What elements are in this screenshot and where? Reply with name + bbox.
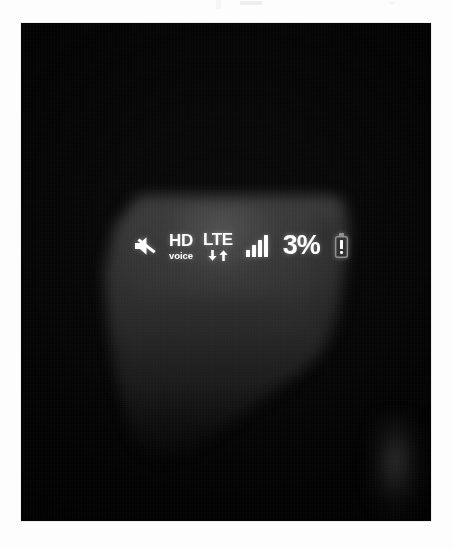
phone-status-bar: HD voice LTE	[133, 230, 348, 262]
phone-screen-photo: HD voice LTE	[21, 23, 431, 521]
battery-warning-dot	[340, 251, 343, 254]
hd-voice-icon: HD voice	[169, 232, 193, 260]
lte-icon: LTE	[203, 231, 233, 261]
signal-bar	[264, 235, 268, 257]
network-type-label: LTE	[203, 231, 233, 248]
signal-bars-icon	[246, 235, 268, 257]
arrow-up-icon	[219, 250, 228, 261]
photo-print-page: HD voice LTE	[0, 0, 453, 549]
hd-voice-secondary-label: voice	[169, 251, 193, 261]
scan-artifact	[240, 1, 262, 5]
speaker-mute-icon[interactable]	[133, 233, 160, 259]
hd-voice-primary-label: HD	[169, 232, 193, 249]
scan-artifact	[216, 0, 221, 9]
arrow-down-icon	[208, 250, 217, 261]
signal-bar	[252, 245, 256, 257]
signal-bar	[246, 250, 250, 257]
data-transfer-arrows	[208, 250, 228, 261]
battery-percent-label: 3%	[283, 230, 320, 261]
signal-bar	[258, 240, 262, 257]
lens-smudge-highlight	[351, 413, 423, 521]
scan-artifact	[389, 2, 395, 5]
battery-warning-mark	[340, 240, 343, 249]
battery-low-warning-icon	[335, 233, 348, 258]
